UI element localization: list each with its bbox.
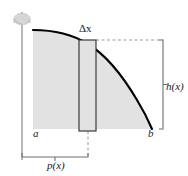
label-left-bound-a: a <box>33 128 39 139</box>
label-height-hx: h(x) <box>166 81 184 92</box>
figure-container: Δx a b h(x) p(x) <box>0 0 188 176</box>
label-distance-px: p(x) <box>47 160 65 171</box>
label-right-bound-b: b <box>148 128 154 139</box>
representative-rectangle <box>79 40 96 131</box>
label-delta-x: Δx <box>79 23 92 34</box>
rotation-arrow-icon <box>14 13 31 24</box>
shell-method-figure <box>0 0 188 176</box>
